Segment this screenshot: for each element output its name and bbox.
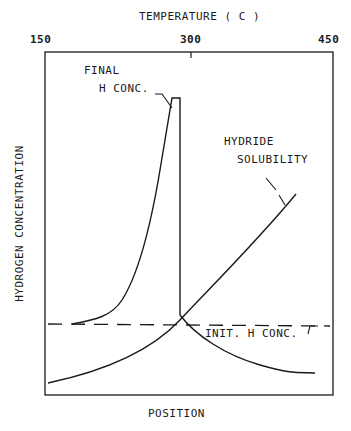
hydride-solubility-curve bbox=[48, 194, 296, 383]
annotation-h-conc: H CONC. bbox=[99, 82, 149, 95]
y-axis-label: HYDROGEN CONCENTRATION bbox=[13, 144, 26, 304]
init-h-leader bbox=[308, 326, 318, 334]
plot-frame bbox=[45, 52, 333, 395]
depleted-tail-curve bbox=[180, 315, 315, 373]
x-axis-label: POSITION bbox=[148, 407, 205, 420]
chart-plot bbox=[0, 0, 351, 431]
top-axis-title: TEMPERATURE ( C ) bbox=[139, 10, 260, 23]
tick-label-300: 300 bbox=[180, 33, 201, 46]
final-h-conc-curve bbox=[72, 98, 180, 324]
annotation-hydride: HYDRIDE bbox=[224, 135, 274, 148]
annotation-init-h-conc: INIT. H CONC. bbox=[205, 327, 298, 340]
annotation-final: FINAL bbox=[84, 64, 120, 77]
annotation-solubility: SOLUBILITY bbox=[237, 153, 308, 166]
final-h-leader bbox=[155, 94, 172, 108]
tick-label-150: 150 bbox=[30, 33, 51, 46]
tick-label-450: 450 bbox=[318, 33, 339, 46]
solubility-leader bbox=[266, 178, 285, 205]
